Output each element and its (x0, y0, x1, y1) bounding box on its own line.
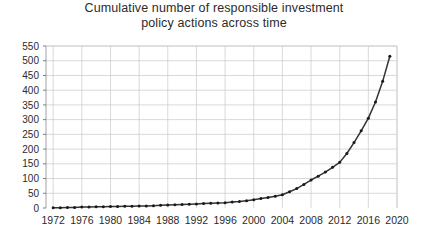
data-point-marker (95, 205, 98, 208)
y-axis-tick-labels: 050100150200250300350400450500550 (22, 41, 39, 214)
x-axis-tick-label: 1980 (99, 214, 123, 226)
data-point-marker (324, 171, 327, 174)
data-point-marker (216, 201, 219, 204)
y-axis-tick-label: 200 (22, 144, 39, 155)
y-axis-tick-label: 550 (22, 41, 39, 52)
plot-background (46, 46, 397, 208)
data-point-marker (310, 179, 313, 182)
x-axis-tick-label: 2016 (357, 214, 381, 226)
y-axis-tick-label: 400 (22, 85, 39, 96)
data-point-marker (195, 202, 198, 205)
y-axis-tick-label: 300 (22, 114, 39, 125)
data-point-marker (274, 195, 277, 198)
data-point-marker (238, 200, 241, 203)
y-axis-tick-label: 150 (22, 158, 39, 169)
data-point-marker (59, 206, 62, 209)
data-point-marker (202, 202, 205, 205)
data-point-marker (252, 198, 255, 201)
data-point-marker (52, 206, 55, 209)
x-axis-tick-label: 1988 (156, 214, 180, 226)
x-axis-tick-label: 1996 (213, 214, 237, 226)
data-point-marker (173, 203, 176, 206)
data-point-marker (166, 204, 169, 207)
y-axis-tick-label: 100 (22, 173, 39, 184)
data-point-marker (360, 129, 363, 132)
y-axis-tick-label: 50 (28, 188, 40, 199)
data-point-marker (145, 204, 148, 207)
data-point-marker (66, 206, 69, 209)
x-axis-tick-label: 2008 (299, 214, 323, 226)
x-axis-tick-label: 1992 (185, 214, 209, 226)
data-point-marker (245, 199, 248, 202)
line-chart-plot: 050100150200250300350400450500550 197219… (0, 0, 428, 244)
data-point-marker (80, 206, 83, 209)
data-point-marker (338, 161, 341, 164)
x-axis-tick-label: 2004 (271, 214, 295, 226)
x-axis-tick-label: 1972 (41, 214, 65, 226)
data-point-marker (302, 183, 305, 186)
data-point-marker (374, 100, 377, 103)
x-axis-tick-label: 2000 (242, 214, 266, 226)
data-point-marker (152, 204, 155, 207)
data-point-marker (73, 206, 76, 209)
y-axis-tick-label: 500 (22, 55, 39, 66)
y-axis-tick-label: 350 (22, 100, 39, 111)
data-point-marker (367, 117, 370, 120)
data-point-marker (181, 203, 184, 206)
data-point-marker (288, 190, 291, 193)
data-point-marker (87, 206, 90, 209)
y-axis-tick-label: 450 (22, 70, 39, 81)
data-point-marker (130, 205, 133, 208)
data-point-marker (159, 204, 162, 207)
data-point-marker (295, 187, 298, 190)
data-point-marker (281, 193, 284, 196)
data-point-marker (388, 55, 391, 58)
x-axis-tick-label: 2012 (328, 214, 352, 226)
data-point-marker (138, 204, 141, 207)
data-point-marker (317, 175, 320, 178)
y-axis-tick-label: 250 (22, 129, 39, 140)
data-point-marker (231, 201, 234, 204)
chart-container: Cumulative number of responsible investm… (0, 0, 428, 244)
y-axis-tick-label: 0 (33, 203, 39, 214)
data-point-marker (123, 205, 126, 208)
data-point-marker (267, 196, 270, 199)
x-axis-tick-label: 1984 (127, 214, 151, 226)
x-axis-tick-labels: 1972197619801984198819921996200020042008… (41, 214, 408, 226)
data-point-marker (345, 152, 348, 155)
x-axis-tick-label: 1976 (70, 214, 94, 226)
data-point-marker (209, 202, 212, 205)
x-axis-tick-label: 2020 (385, 214, 409, 226)
data-point-marker (188, 203, 191, 206)
data-point-marker (331, 166, 334, 169)
data-point-marker (259, 197, 262, 200)
data-point-marker (102, 205, 105, 208)
data-point-marker (109, 205, 112, 208)
data-point-marker (353, 141, 356, 144)
data-point-marker (116, 205, 119, 208)
data-point-marker (381, 80, 384, 83)
data-point-marker (224, 201, 227, 204)
